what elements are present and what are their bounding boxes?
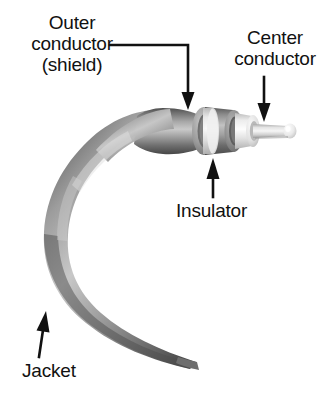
insulator-arrow [207, 158, 220, 197]
coax-cable-figure: Outer conductor (shield) Center conducto… [0, 0, 332, 400]
label-insulator: Insulator [176, 200, 294, 221]
label-jacket: Jacket [22, 360, 122, 381]
label-outer-conductor: Outer conductor (shield) [6, 12, 138, 75]
center-conductor-arrow [258, 77, 271, 122]
cable-jacket [44, 108, 205, 370]
jacket-arrow [37, 311, 50, 357]
label-center-conductor: Center conductor [218, 27, 332, 69]
center-conductor [253, 124, 297, 140]
